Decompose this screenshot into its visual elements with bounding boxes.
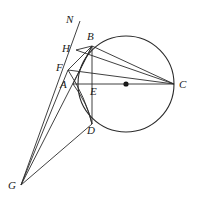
point-label-H: H bbox=[62, 43, 70, 54]
point-label-D: D bbox=[87, 125, 95, 136]
point-label-C: C bbox=[179, 79, 186, 90]
segment-H-C bbox=[76, 50, 174, 84]
point-label-B: B bbox=[87, 31, 94, 42]
point-label-N: N bbox=[66, 14, 73, 25]
point-label-A: A bbox=[60, 79, 67, 90]
line-N-G bbox=[21, 21, 80, 185]
point-label-G: G bbox=[8, 180, 16, 191]
point-label-F: F bbox=[56, 62, 63, 73]
segment-F-B bbox=[68, 46, 92, 70]
point-label-E: E bbox=[90, 86, 97, 97]
geometry-figure: N B H F A E C D G bbox=[0, 0, 197, 209]
geometry-canvas bbox=[0, 0, 197, 209]
